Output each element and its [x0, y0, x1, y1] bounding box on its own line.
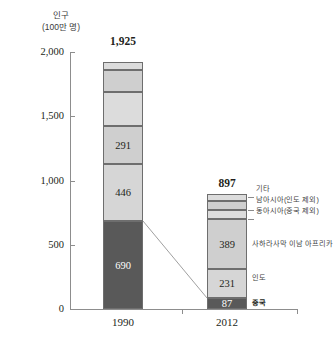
y-tick-label-1000: 1,000	[18, 175, 64, 186]
y-tick-mark-1000	[70, 181, 75, 182]
y-tick-label-0: 0	[18, 303, 64, 314]
y-axis-title-line1: 인구	[18, 10, 104, 22]
y-tick-label-2000: 2,000	[18, 46, 64, 57]
leader-line-east-asia	[248, 219, 254, 220]
bar-1990: 291 446 690	[103, 62, 143, 309]
segment-1990-subsaharan-africa: 291	[103, 126, 143, 164]
y-axis-title-line2: (100만 명)	[18, 22, 104, 34]
legend-label-south-asia: 남아시아(인도 제외)	[256, 194, 319, 204]
leader-line-south-asia	[248, 210, 254, 211]
legend-label-subsaharan-africa: 사하라사막 이남 아프리카	[252, 238, 333, 248]
y-tick-mark-0	[70, 309, 75, 310]
x-axis-label-2012: 2012	[187, 316, 267, 328]
legend-label-china: 중국	[252, 297, 266, 307]
legend-label-other: 기타	[256, 183, 270, 193]
bar-total-2012: 897	[192, 177, 262, 189]
segment-2012-china: 87	[207, 298, 247, 309]
leader-line-other	[248, 197, 254, 198]
segment-2012-east-asia	[207, 210, 247, 219]
segment-2012-other	[207, 194, 247, 201]
y-tick-mark-2000	[70, 52, 75, 53]
y-tick-mark-500	[70, 245, 75, 246]
legend-label-india: 인도	[252, 272, 266, 282]
segment-1990-south-asia	[103, 70, 143, 92]
segment-1990-india: 446	[103, 164, 143, 221]
x-tick-mark-end	[297, 309, 298, 314]
bar-total-1990: 1,925	[88, 35, 158, 47]
segment-1990-china: 690	[103, 221, 143, 309]
segment-2012-india: 231	[207, 269, 247, 298]
segment-2012-subsaharan-africa: 389	[207, 219, 247, 269]
x-axis-label-1990: 1990	[83, 316, 163, 328]
segment-1990-other	[103, 62, 143, 70]
x-axis-line	[70, 309, 298, 310]
segment-1990-east-asia	[103, 92, 143, 126]
y-tick-mark-1500	[70, 116, 75, 117]
bar-2012: 389 231 87	[207, 194, 247, 309]
x-tick-mark-divider	[182, 309, 183, 314]
y-tick-label-500: 500	[18, 239, 64, 250]
y-tick-label-1500: 1,500	[18, 110, 64, 121]
segment-2012-south-asia	[207, 201, 247, 210]
y-axis-title: 인구 (100만 명)	[18, 10, 104, 33]
legend-label-east-asia: 동아시아(중국 제외)	[256, 205, 319, 215]
